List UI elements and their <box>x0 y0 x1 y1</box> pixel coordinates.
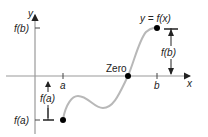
fa-measure-label: f(a) <box>40 93 55 104</box>
fb-tick-label: f(b) <box>14 23 29 34</box>
fa-tick-label: f(a) <box>14 115 29 126</box>
curve-label: y = f(x) <box>139 13 171 24</box>
x-axis-label: x <box>186 78 193 89</box>
y-axis-label: y <box>27 8 34 19</box>
zero-label: Zero <box>106 63 127 74</box>
ivt-diagram: y x f(b) f(a) a b f(a) f(b) y = f(x) Zer… <box>0 0 208 137</box>
a-tick-label: a <box>60 80 66 91</box>
point-a <box>60 117 66 123</box>
fb-measure-label: f(b) <box>161 47 176 58</box>
b-tick-label: b <box>154 80 160 91</box>
point-b <box>154 25 160 31</box>
